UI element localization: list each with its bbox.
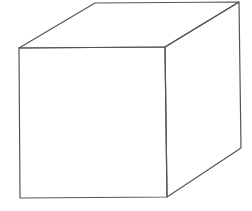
cube-drawing [0,0,252,211]
cube-top-face [19,2,239,48]
cube [19,2,241,198]
cube-right-face [165,2,241,197]
cube-front-face [19,47,167,198]
